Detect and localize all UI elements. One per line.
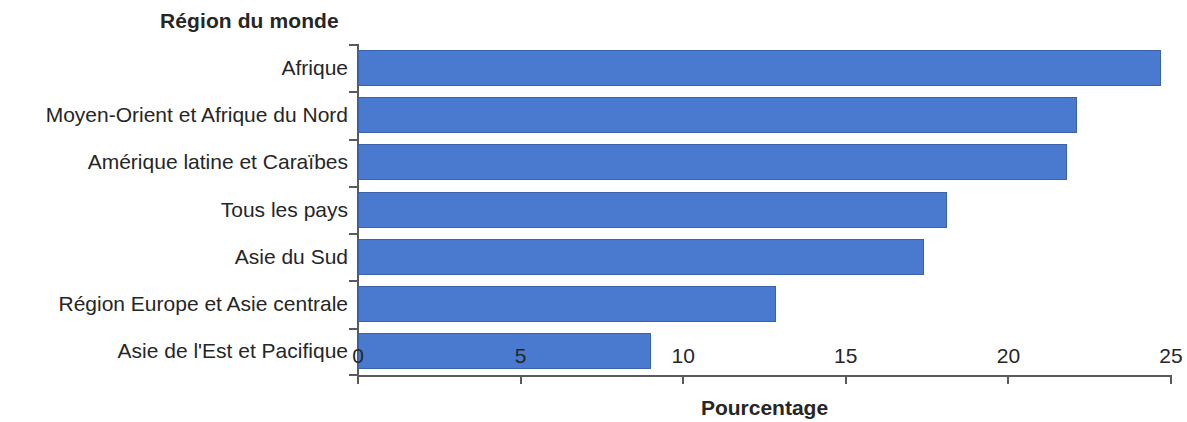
y-axis-tick-label: Afrique	[0, 57, 348, 78]
bar-chart: Région du monde AfriqueMoyen-Orient et A…	[0, 0, 1187, 422]
x-axis-title: Pourcentage	[358, 396, 1171, 420]
y-axis-tick-label: Moyen-Orient et Afrique du Nord	[0, 104, 348, 125]
x-axis-tick-label: 0	[352, 344, 364, 368]
y-axis-tick-label: Région Europe et Asie centrale	[0, 293, 348, 314]
x-axis-tick	[357, 375, 359, 384]
y-axis-tick	[349, 280, 358, 282]
x-axis-tick-label: 10	[672, 344, 695, 368]
y-axis-tick	[349, 233, 358, 235]
x-axis-tick	[682, 375, 684, 384]
plot-area	[358, 44, 1171, 375]
y-axis-tick-label: Asie de l'Est et Pacifique	[0, 340, 348, 361]
y-axis-tick-label: Amérique latine et Caraïbes	[0, 151, 348, 172]
y-axis-tick	[349, 44, 358, 46]
y-axis-tick	[349, 328, 358, 330]
bar	[358, 192, 947, 228]
bar	[358, 144, 1067, 180]
x-axis-tick	[1007, 375, 1009, 384]
x-axis-tick-label: 15	[834, 344, 857, 368]
bar	[358, 286, 776, 322]
y-axis-tick	[349, 139, 358, 141]
x-axis-tick-label: 20	[997, 344, 1020, 368]
x-axis-tick-label: 5	[515, 344, 527, 368]
y-axis-tick	[349, 186, 358, 188]
x-axis-tick	[520, 375, 522, 384]
y-axis-title: Région du monde	[160, 9, 339, 33]
x-axis-tick-label: 25	[1159, 344, 1182, 368]
x-axis-spine	[357, 375, 1172, 377]
y-axis-tick-label: Tous les pays	[0, 199, 348, 220]
y-axis-tick-label: Asie du Sud	[0, 246, 348, 267]
x-axis-tick	[1170, 375, 1172, 384]
y-axis-tick	[349, 91, 358, 93]
bar	[358, 239, 924, 275]
x-axis-tick	[845, 375, 847, 384]
bar	[358, 50, 1161, 86]
bar	[358, 333, 651, 369]
bar	[358, 97, 1077, 133]
